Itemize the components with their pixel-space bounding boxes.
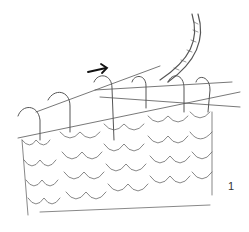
- knitting-sketch: [0, 0, 249, 232]
- needle: [18, 66, 240, 138]
- knitted-fabric: [22, 112, 212, 215]
- direction-arrow-icon: [88, 64, 107, 73]
- working-yarn: [160, 14, 201, 82]
- step-number-label: 1: [228, 180, 234, 192]
